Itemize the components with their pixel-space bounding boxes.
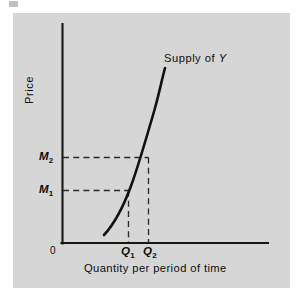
- origin-label: 0: [50, 245, 56, 256]
- supply-label-variable: Y: [219, 52, 227, 64]
- y-tick-m2-base: M: [39, 150, 49, 162]
- supply-curve: [104, 68, 165, 235]
- x-tick-label-q2: Q2: [143, 245, 157, 260]
- y-axis-label: Price: [23, 76, 35, 104]
- x-tick-q1-base: Q: [121, 245, 130, 257]
- supply-label-prefix: Supply of: [164, 52, 219, 64]
- y-tick-m2-sub: 2: [49, 156, 54, 165]
- y-tick-m1-sub: 1: [49, 189, 54, 198]
- figure-root: Supply of Y Price Quantity per period of…: [0, 0, 305, 302]
- y-tick-label-m2: M2: [39, 150, 53, 165]
- x-tick-q2-sub: 2: [152, 251, 157, 260]
- x-tick-q2-base: Q: [143, 245, 152, 257]
- y-tick-m1-base: M: [39, 183, 49, 195]
- x-tick-q1-sub: 1: [130, 251, 135, 260]
- x-tick-label-q1: Q1: [121, 245, 135, 260]
- supply-curve-label: Supply of Y: [164, 52, 227, 64]
- x-axis-label: Quantity per period of time: [84, 262, 227, 274]
- y-tick-label-m1: M1: [39, 183, 53, 198]
